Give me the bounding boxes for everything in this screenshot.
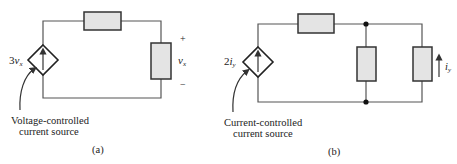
circuit-b: 2iy iy Current-controlled current source…: [224, 14, 452, 158]
node-b-bottom: [363, 99, 368, 104]
resistor-b-right: [413, 47, 432, 81]
annotation-a-arrow-icon: [20, 69, 34, 110]
wire-b-bottom: [258, 77, 422, 102]
annotation-b-arrow-icon: [233, 71, 247, 112]
annotation-b-line2: current source: [233, 128, 293, 139]
voltage-a-plus: +: [180, 33, 186, 44]
annotation-b-line1: Current-controlled: [224, 117, 303, 128]
source-b-label: 2iy: [224, 55, 237, 69]
resistor-b-top: [298, 14, 334, 33]
circuit-diagrams: 3vx + vx − Voltage-controlled current so…: [0, 0, 457, 164]
voltage-a-minus: −: [180, 79, 186, 90]
source-a-label: 3vx: [9, 54, 23, 68]
current-iy-label: iy: [445, 61, 452, 74]
caption-a: (a): [92, 144, 104, 156]
resistor-a-top: [84, 12, 121, 30]
wire-b-top-right: [334, 24, 422, 47]
voltage-a-label: vx: [178, 54, 187, 68]
node-b-top: [363, 21, 368, 26]
caption-b: (b): [328, 146, 341, 158]
annotation-a-line1: Voltage-controlled: [11, 115, 90, 126]
resistor-a-right: [151, 43, 171, 79]
resistor-b-middle: [357, 47, 376, 81]
circuit-a: 3vx + vx − Voltage-controlled current so…: [9, 12, 187, 156]
wire-a-top: [43, 21, 84, 45]
wire-a-top-right: [121, 21, 161, 43]
wire-b-top-left: [258, 24, 298, 47]
wire-a-right-bottom: [43, 75, 161, 98]
annotation-a-line2: current source: [19, 126, 79, 137]
